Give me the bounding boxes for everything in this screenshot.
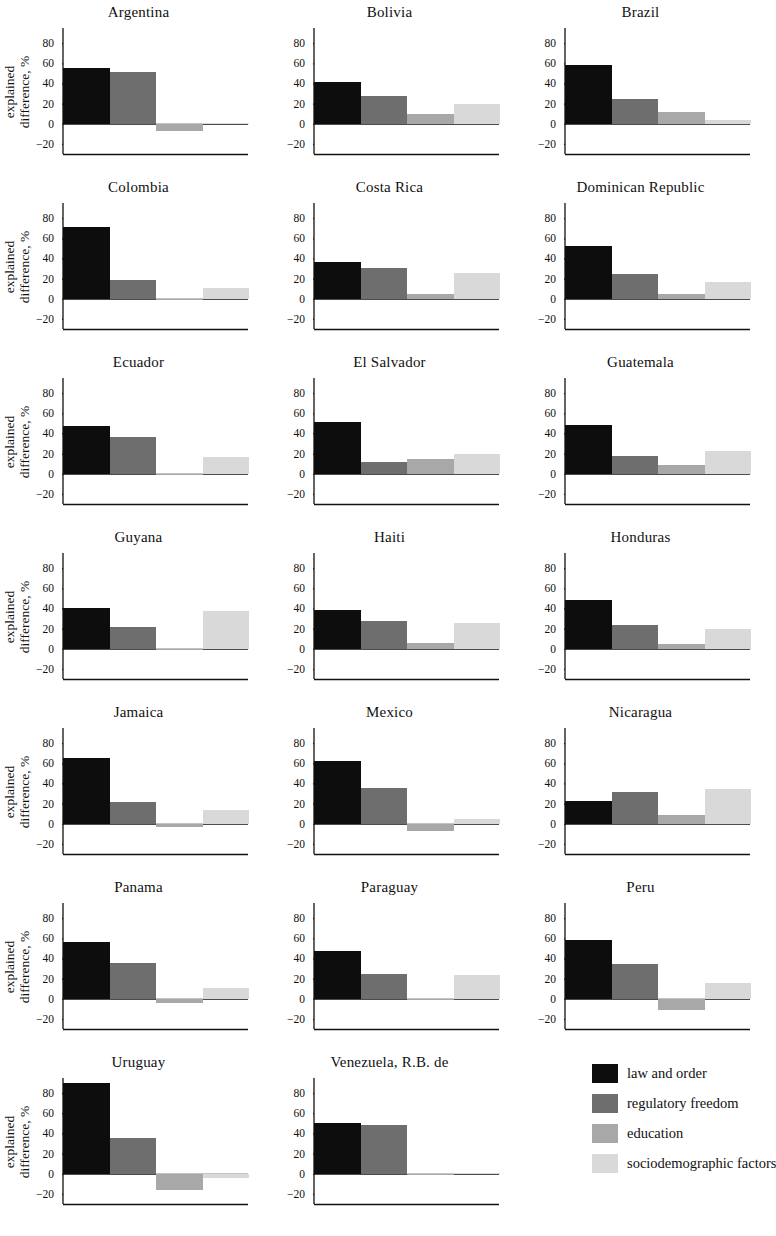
y-tick-label: 60 — [273, 1108, 305, 1118]
bar-regulatory-freedom — [110, 627, 157, 649]
y-tick-label: −20 — [273, 314, 305, 324]
y-tick-label: 20 — [22, 274, 54, 284]
y-axis-label-line1: explained — [2, 207, 17, 327]
bar-law-and-order — [565, 940, 612, 998]
y-tick-label: 60 — [22, 233, 54, 243]
chart-panel: Uruguayexplaineddifference, %−2002040608… — [0, 1054, 251, 1229]
y-tick-label: 40 — [524, 253, 556, 263]
bar-education — [658, 112, 705, 124]
y-tick-label: 80 — [273, 913, 305, 923]
y-tick-label: 80 — [22, 913, 54, 923]
panel-title: Ecuador — [0, 354, 251, 371]
y-tick-label: 80 — [273, 388, 305, 398]
y-tick-label: 20 — [22, 624, 54, 634]
bar-law-and-order — [314, 422, 361, 473]
y-tick-label: 60 — [524, 933, 556, 943]
panel-title: Guyana — [0, 529, 251, 546]
bar-sociodemographic-factors — [454, 454, 501, 474]
bar-sociodemographic-factors — [705, 983, 752, 999]
panel-title: Venezuela, R.B. de — [251, 1054, 502, 1071]
bar-law-and-order — [314, 761, 361, 823]
bar-regulatory-freedom — [361, 462, 408, 474]
plot-area: −20020406080 — [564, 728, 750, 854]
plot-area: −20020406080 — [62, 1078, 248, 1204]
panel-title: Guatemala — [502, 354, 753, 371]
y-tick-label: 0 — [524, 644, 556, 654]
bar-law-and-order — [63, 942, 110, 998]
y-tick-label: 80 — [524, 213, 556, 223]
plot-area: −20020406080 — [564, 903, 750, 1029]
bar-education — [658, 999, 705, 1010]
y-axis-label-line1: explained — [2, 32, 17, 152]
bar-law-and-order — [565, 65, 612, 123]
chart-panel: Panamaexplaineddifference, %−20020406080 — [0, 879, 251, 1054]
bar-sociodemographic-factors — [454, 273, 501, 299]
y-tick-label: −20 — [273, 664, 305, 674]
chart-panel: Dominican Republic−20020406080 — [502, 179, 753, 354]
y-tick-label: 20 — [273, 1149, 305, 1159]
plot-area: −20020406080 — [313, 553, 499, 679]
bar-education — [156, 474, 203, 475]
y-tick-label: −20 — [524, 139, 556, 149]
y-tick-label: −20 — [22, 314, 54, 324]
y-tick-label: 80 — [273, 213, 305, 223]
y-tick-label: −20 — [273, 139, 305, 149]
y-tick-label: 40 — [273, 953, 305, 963]
y-tick-label: 20 — [524, 99, 556, 109]
panel-title: Bolivia — [251, 4, 502, 21]
bar-sociodemographic-factors — [705, 629, 752, 649]
y-tick-label: 0 — [22, 994, 54, 1004]
y-tick-label: 60 — [273, 933, 305, 943]
y-axis-label: explaineddifference, % — [2, 382, 24, 502]
plot-area: −20020406080 — [313, 28, 499, 154]
bar-law-and-order — [63, 758, 110, 824]
plot-area: −20020406080 — [62, 728, 248, 854]
panel-title: Costa Rica — [251, 179, 502, 196]
bar-regulatory-freedom — [612, 456, 659, 474]
panel-title: Peru — [502, 879, 753, 896]
y-tick-label: 80 — [22, 38, 54, 48]
y-tick-label: 40 — [273, 428, 305, 438]
legend-item-regulatory_freedom: regulatory freedom — [592, 1088, 754, 1118]
y-tick-label: 80 — [524, 738, 556, 748]
y-tick-label: 60 — [524, 233, 556, 243]
y-tick-label: 80 — [524, 38, 556, 48]
bar-sociodemographic-factors — [705, 120, 752, 124]
y-tick-label: 20 — [273, 449, 305, 459]
y-tick-label: −20 — [524, 1014, 556, 1024]
bar-law-and-order — [314, 1123, 361, 1173]
y-axis-label-line2: difference, % — [17, 32, 32, 152]
legend-swatch-sociodemographic_factors — [592, 1154, 618, 1173]
y-tick-label: 0 — [22, 119, 54, 129]
y-tick-label: 60 — [22, 408, 54, 418]
panel-title: Honduras — [502, 529, 753, 546]
y-tick-label: 60 — [22, 58, 54, 68]
y-tick-label: 20 — [22, 799, 54, 809]
bar-sociodemographic-factors — [454, 975, 501, 999]
y-tick-label: 0 — [273, 294, 305, 304]
y-tick-label: −20 — [22, 139, 54, 149]
bar-education — [156, 1174, 203, 1190]
y-tick-label: 0 — [273, 644, 305, 654]
bar-education — [407, 294, 454, 299]
legend-swatch-law_and_order — [592, 1064, 618, 1083]
bar-education — [407, 1174, 454, 1175]
y-tick-label: 40 — [22, 778, 54, 788]
bar-education — [156, 299, 203, 300]
y-tick-label: 60 — [273, 408, 305, 418]
y-tick-label: 40 — [22, 428, 54, 438]
plot-area: −20020406080 — [564, 203, 750, 329]
y-tick-label: 0 — [524, 819, 556, 829]
y-axis-label-line1: explained — [2, 382, 17, 502]
panel-title: Panama — [0, 879, 251, 896]
y-tick-label: −20 — [22, 489, 54, 499]
y-axis-label: explaineddifference, % — [2, 557, 24, 677]
y-tick-label: −20 — [273, 489, 305, 499]
bar-education — [407, 643, 454, 649]
chart-panel: Costa Rica−20020406080 — [251, 179, 502, 354]
chart-legend: law and orderregulatory freedomeducation… — [592, 1058, 754, 1178]
bar-law-and-order — [63, 227, 110, 299]
chart-panel: Argentinaexplaineddifference, %−20020406… — [0, 4, 251, 179]
y-tick-label: 20 — [524, 799, 556, 809]
